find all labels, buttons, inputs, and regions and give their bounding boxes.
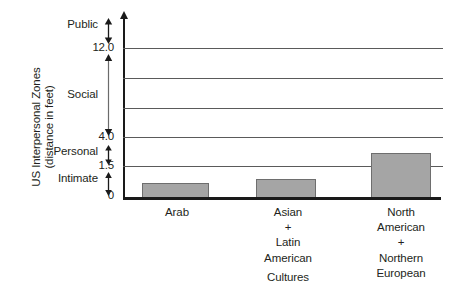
gridline-12 [123, 48, 443, 49]
y-axis-arrow-icon [120, 11, 128, 19]
category-label-north-line5: European [358, 266, 444, 281]
category-label-arab: Arab [137, 205, 217, 220]
category-label-north-american-northern-european: North American + Northern European [358, 205, 444, 281]
plot-area [123, 18, 445, 200]
category-label-north-line2: American [358, 220, 444, 235]
category-label-asian-line1: Asian [245, 205, 331, 220]
bar-arab [142, 183, 209, 198]
category-label-arab-line1: Arab [137, 205, 217, 220]
category-label-north-line4: Northern [358, 251, 444, 266]
category-label-north-line3: + [358, 235, 444, 250]
category-label-asian-latin-american: Asian + Latin American [245, 205, 331, 266]
category-label-asian-line3: Latin [245, 235, 331, 250]
category-label-asian-line2: + [245, 220, 331, 235]
x-axis-title: Cultures [245, 271, 331, 283]
y-axis-title-line1: US Interpersonal Zones [30, 67, 43, 186]
gridline-4 [123, 137, 443, 138]
zone-label-social: Social [18, 88, 98, 100]
y-axis-title: US Interpersonal Zones (distance in feet… [23, 37, 63, 217]
ytick-label-1-5: 1.5 [58, 159, 114, 171]
zone-arrow-social-icon [103, 54, 114, 136]
ytick-label-12: 12.0 [58, 41, 114, 53]
gridline-lower-mid [123, 108, 443, 109]
ytick-label-0: 0 [58, 189, 114, 201]
category-label-north-line1: North [358, 205, 444, 220]
zone-label-public: Public [18, 18, 98, 30]
zone-label-intimate: Intimate [18, 172, 98, 184]
bar-asian-latin-american [256, 179, 316, 198]
ytick-label-4: 4.0 [58, 130, 114, 142]
x-axis-line [123, 197, 441, 200]
bar-chart: US Interpersonal Zones (distance in feet… [0, 0, 465, 303]
category-label-asian-line4: American [245, 251, 331, 266]
gridline-upper-mid [123, 78, 443, 79]
zone-label-personal: Personal [18, 145, 98, 157]
bar-north-american-northern-european [371, 153, 431, 198]
